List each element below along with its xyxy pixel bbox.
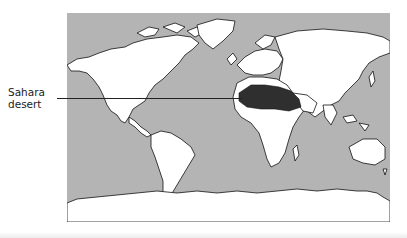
north-america (67, 35, 199, 123)
leader-line (57, 98, 243, 99)
greenland (197, 19, 235, 49)
page-edge (0, 232, 407, 238)
south-america (151, 131, 195, 199)
label-line-2: desert (8, 98, 45, 110)
world-map-graphic (67, 13, 390, 222)
europe (237, 49, 283, 75)
australia (349, 139, 385, 165)
antarctica (67, 189, 390, 222)
sahara-label: Sahara desert (8, 86, 45, 110)
world-map (67, 13, 390, 222)
label-line-1: Sahara (8, 86, 45, 98)
